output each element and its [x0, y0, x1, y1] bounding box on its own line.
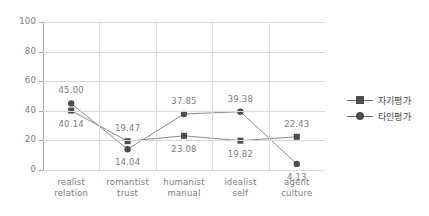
- legend-item-other-evaluation[interactable]: 타인평가: [347, 108, 411, 124]
- data-point-label: 19.82: [228, 149, 253, 159]
- square-marker-icon: [347, 94, 373, 106]
- grid-line-vertical: [212, 22, 213, 170]
- x-axis-category-line: agent: [281, 177, 312, 188]
- data-point-label: 37.85: [171, 96, 196, 106]
- x-axis-category-label: humanistmanual: [163, 177, 204, 199]
- data-point-marker: [124, 146, 130, 152]
- x-axis-category-line: trust: [106, 188, 149, 199]
- y-tick-mark: [39, 81, 43, 82]
- grid-line-horizontal: [43, 111, 325, 112]
- y-tick-mark: [39, 111, 43, 112]
- grid-line-horizontal: [43, 170, 325, 171]
- grid-line-horizontal: [43, 52, 325, 53]
- data-point-label: 39.38: [228, 94, 253, 104]
- data-point-label: 14.04: [115, 157, 140, 167]
- grid-line-horizontal: [43, 81, 325, 82]
- y-tick-mark: [39, 170, 43, 171]
- y-tick-label: 100: [19, 16, 36, 26]
- y-tick-mark: [39, 140, 43, 141]
- x-axis-category-label: agentculture: [281, 177, 312, 199]
- data-point-label: 22.43: [284, 119, 309, 129]
- line-chart: 020406080100 40.1419.4723.0819.8222.4345…: [0, 0, 429, 216]
- y-tick-mark: [39, 22, 43, 23]
- x-axis-category-line: relation: [54, 188, 88, 199]
- x-axis-category-label: romantisttrust: [106, 177, 149, 199]
- x-axis-category-label: realistrelation: [54, 177, 88, 199]
- x-axis-category-line: realist: [54, 177, 88, 188]
- y-tick-label: 60: [25, 75, 36, 85]
- grid-line-vertical: [156, 22, 157, 170]
- data-point-marker: [294, 161, 300, 167]
- x-axis-category-line: manual: [163, 188, 204, 199]
- data-point-marker: [294, 134, 300, 140]
- x-axis-category-line: culture: [281, 188, 312, 199]
- data-point-label: 45.00: [59, 85, 84, 95]
- circle-marker-icon: [347, 110, 373, 122]
- grid-line-vertical: [269, 22, 270, 170]
- y-tick-label: 40: [25, 105, 36, 115]
- legend-item-label: 타인평가: [378, 110, 411, 123]
- data-point-label: 40.14: [59, 119, 84, 129]
- grid-line-horizontal: [43, 140, 325, 141]
- data-point-marker: [181, 133, 187, 139]
- grid-line-vertical: [99, 22, 100, 170]
- y-tick-label: 20: [25, 134, 36, 144]
- x-axis-category-line: humanist: [163, 177, 204, 188]
- x-axis-category-line: idealist: [224, 177, 256, 188]
- data-point-marker: [68, 100, 74, 106]
- y-tick-label: 80: [25, 46, 36, 56]
- y-tick-label: 0: [30, 164, 36, 174]
- legend-item-self-evaluation[interactable]: 자기평가: [347, 92, 411, 108]
- x-axis-category-line: romantist: [106, 177, 149, 188]
- grid-line-horizontal: [43, 22, 325, 23]
- y-tick-mark: [39, 52, 43, 53]
- data-point-label: 23.08: [171, 144, 196, 154]
- legend: 자기평가 타인평가: [347, 92, 411, 124]
- x-axis-category-label: idealistself: [224, 177, 256, 199]
- x-axis-category-line: self: [224, 188, 256, 199]
- data-point-label: 19.47: [115, 123, 140, 133]
- legend-item-label: 자기평가: [378, 94, 411, 107]
